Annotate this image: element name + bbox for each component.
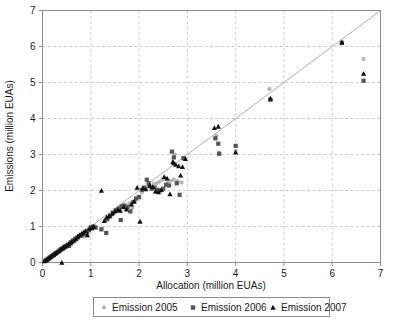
legend-marker-square bbox=[191, 305, 195, 309]
chart-background bbox=[0, 0, 397, 323]
data-point-circle bbox=[172, 178, 176, 182]
data-point-square bbox=[178, 193, 182, 197]
x-tick-label: 3 bbox=[185, 268, 191, 279]
x-tick-label: 0 bbox=[40, 268, 46, 279]
data-point-square bbox=[119, 218, 123, 222]
data-point-circle bbox=[179, 180, 183, 184]
legend-items-group: Emission 2005Emission 2006Emission 2007 bbox=[102, 302, 347, 313]
y-axis-title: Emissions (million EUAs) bbox=[4, 80, 15, 192]
y-tick-label: 1 bbox=[30, 221, 36, 232]
data-point-square bbox=[145, 178, 149, 182]
scatter-chart-figure: 01234567 01234567 Allocation (million EU… bbox=[0, 0, 397, 323]
x-tick-label: 5 bbox=[281, 268, 287, 279]
chart-svg: 01234567 01234567 Allocation (million EU… bbox=[0, 0, 397, 323]
legend-label: Emission 2007 bbox=[281, 302, 347, 313]
y-tick-label: 6 bbox=[30, 41, 36, 52]
data-point-square bbox=[137, 195, 141, 199]
y-tick-label: 3 bbox=[30, 149, 36, 160]
y-tick-label: 0 bbox=[30, 257, 36, 268]
x-tick-label: 4 bbox=[233, 268, 239, 279]
x-tick-label: 1 bbox=[88, 268, 94, 279]
data-point-circle bbox=[362, 57, 366, 61]
data-point-circle bbox=[267, 87, 271, 91]
chart-legend: Emission 2005Emission 2006Emission 2007 bbox=[94, 298, 348, 317]
data-point-square bbox=[99, 227, 103, 231]
data-point-square bbox=[172, 155, 176, 159]
data-point-square bbox=[104, 231, 108, 235]
x-tick-label: 6 bbox=[329, 268, 335, 279]
data-point-square bbox=[216, 142, 220, 146]
data-point-square bbox=[170, 150, 174, 154]
y-tick-label: 5 bbox=[30, 77, 36, 88]
x-tick-label: 2 bbox=[136, 268, 142, 279]
data-point-square bbox=[217, 152, 221, 156]
data-point-square bbox=[213, 136, 217, 140]
x-axis-title: Allocation (million EUAs) bbox=[156, 280, 265, 291]
legend-label: Emission 2005 bbox=[112, 302, 178, 313]
x-tick-label: 7 bbox=[378, 268, 384, 279]
legend-label: Emission 2006 bbox=[201, 302, 267, 313]
data-point-square bbox=[167, 183, 171, 187]
legend-marker-circle bbox=[102, 305, 106, 309]
data-point-square bbox=[362, 79, 366, 83]
y-tick-label: 4 bbox=[30, 113, 36, 124]
y-tick-label: 7 bbox=[30, 5, 36, 16]
y-tick-label: 2 bbox=[30, 185, 36, 196]
data-point-square bbox=[234, 144, 238, 148]
data-point-square bbox=[175, 181, 179, 185]
